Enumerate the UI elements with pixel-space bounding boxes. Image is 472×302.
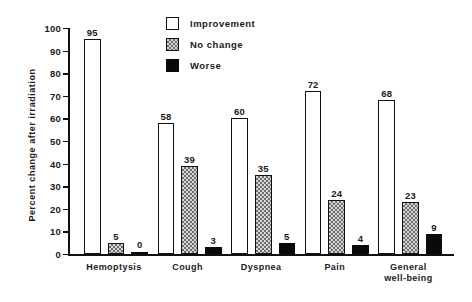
bar-value-label: 68 xyxy=(381,88,392,99)
y-tick-label: 100 xyxy=(45,23,61,34)
open-square-icon xyxy=(166,17,179,30)
bar-value-label: 35 xyxy=(258,163,269,174)
x-axis-group-label: Generalwell-being xyxy=(374,262,442,284)
x-axis-group-label-line2: well-being xyxy=(374,273,442,284)
y-axis-title: Percent change after irradiation xyxy=(27,35,37,255)
y-tick-mark xyxy=(63,96,68,97)
bar-value-label: 58 xyxy=(160,111,171,122)
filled-square-icon xyxy=(166,59,179,72)
bar-value-label: 0 xyxy=(137,239,142,250)
x-axis-group-label: Cough xyxy=(154,262,222,273)
y-tick-label: 40 xyxy=(50,158,61,169)
bar-nochange: 35 xyxy=(255,175,272,254)
bar-group-bars: 9550 xyxy=(80,28,148,254)
chart-legend: Improvement No change Worse xyxy=(166,14,255,77)
bar-value-label: 9 xyxy=(431,222,436,233)
y-tick-mark xyxy=(63,51,68,52)
y-tick-label: 90 xyxy=(50,45,61,56)
y-tick-mark xyxy=(63,254,68,255)
bar-group-bars: 68239 xyxy=(374,28,442,254)
legend-label-improvement: Improvement xyxy=(190,18,255,29)
legend-item-worse: Worse xyxy=(166,56,255,75)
legend-item-improvement: Improvement xyxy=(166,14,255,33)
bar-value-label: 4 xyxy=(358,233,363,244)
y-tick-mark xyxy=(63,118,68,119)
bar-improvement: 60 xyxy=(231,118,248,254)
bar-value-label: 39 xyxy=(184,154,195,165)
bar-value-label: 60 xyxy=(234,106,245,117)
bar-worse: 4 xyxy=(352,245,369,254)
bar-value-label: 5 xyxy=(113,231,118,242)
bar-group: 9550Hemoptysis xyxy=(80,28,148,254)
y-tick-mark xyxy=(63,186,68,187)
y-tick-label: 20 xyxy=(50,203,61,214)
bar-value-label: 72 xyxy=(308,79,319,90)
y-tick-label: 0 xyxy=(56,249,61,260)
y-axis-line xyxy=(68,28,70,254)
bar-value-label: 95 xyxy=(87,27,98,38)
bar-group: 68239Generalwell-being xyxy=(374,28,442,254)
bar-improvement: 58 xyxy=(158,123,175,254)
y-tick-label: 50 xyxy=(50,136,61,147)
y-tick-label: 70 xyxy=(50,90,61,101)
bar-group-bars: 72244 xyxy=(301,28,369,254)
y-tick-label: 30 xyxy=(50,181,61,192)
bar-value-label: 24 xyxy=(331,188,342,199)
bar-chart-figure: Percent change after irradiation 1009080… xyxy=(0,0,472,302)
y-tick-mark xyxy=(63,28,68,29)
bar-group: 72244Pain xyxy=(301,28,369,254)
x-axis-group-label: Dyspnea xyxy=(227,262,295,273)
y-tick-label: 60 xyxy=(50,113,61,124)
bar-worse: 3 xyxy=(205,247,222,254)
legend-label-worse: Worse xyxy=(190,60,221,71)
y-tick-mark xyxy=(63,164,68,165)
y-tick-mark xyxy=(63,141,68,142)
y-tick-mark xyxy=(63,73,68,74)
x-axis-group-label: Hemoptysis xyxy=(80,262,148,273)
x-axis-group-label: Pain xyxy=(301,262,369,273)
bar-nochange: 24 xyxy=(328,200,345,254)
legend-item-no-change: No change xyxy=(166,35,255,54)
bar-nochange: 5 xyxy=(108,243,125,254)
bar-improvement: 72 xyxy=(305,91,322,254)
bar-worse: 0 xyxy=(131,252,148,254)
x-axis-line xyxy=(68,254,454,256)
bar-improvement: 95 xyxy=(84,39,101,254)
y-tick-mark xyxy=(63,231,68,232)
x-axis-group-label-line1: General xyxy=(374,262,442,273)
stippled-square-icon xyxy=(166,38,179,51)
bar-worse: 9 xyxy=(426,234,443,254)
bar-value-label: 23 xyxy=(405,190,416,201)
bar-value-label: 3 xyxy=(211,235,216,246)
plot-area: 1009080706050403020100 9550Hemoptysis583… xyxy=(68,28,454,254)
bar-nochange: 39 xyxy=(181,166,198,254)
legend-label-no-change: No change xyxy=(190,39,243,50)
bar-nochange: 23 xyxy=(402,202,419,254)
bar-worse: 5 xyxy=(279,243,296,254)
bar-value-label: 5 xyxy=(284,231,289,242)
y-tick-mark xyxy=(63,209,68,210)
bar-improvement: 68 xyxy=(378,100,395,254)
y-tick-label: 80 xyxy=(50,68,61,79)
y-tick-label: 10 xyxy=(50,226,61,237)
